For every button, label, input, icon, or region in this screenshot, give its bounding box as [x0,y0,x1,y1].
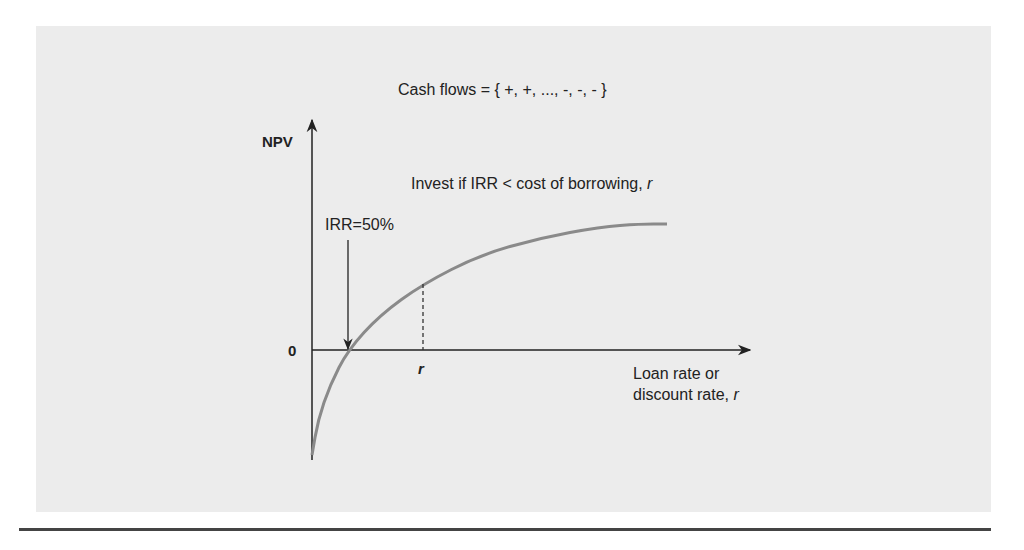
irr-label: IRR=50% [325,216,394,233]
zero-label: 0 [288,342,296,359]
invest-rule: Invest if IRR < cost of borrowing, r [411,175,653,192]
npv-diagram: Cash flows = { +, +, ..., -, -, - } NPV … [0,0,1024,550]
figure-title: Cash flows = { +, +, ..., -, -, - } [398,81,607,98]
npv-curve [312,224,667,455]
x-axis-label-line2: discount rate, r [633,386,740,403]
x-axis-label-line1: Loan rate or [633,365,720,382]
y-axis-label: NPV [262,133,293,150]
r-tick-label: r [418,360,425,377]
